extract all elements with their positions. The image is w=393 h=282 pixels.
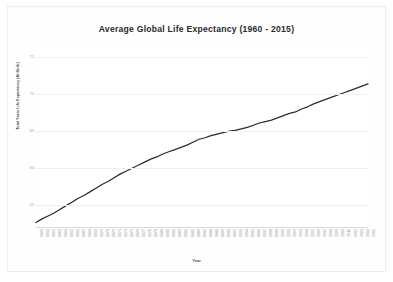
gridline [36,168,368,169]
x-tick-label: 1992 [233,229,237,237]
x-axis-line [36,227,368,228]
x-tick-label: 2004 [305,229,309,237]
x-axis-title: Year [0,258,393,263]
x-tick-label: 1985 [191,229,195,237]
x-tick-label: 1978 [148,229,152,237]
x-tick-label: 1967 [82,229,86,237]
x-tick-label: 1960 [40,229,44,237]
x-tick-label: 2009 [335,229,339,237]
x-tick-label: 2007 [323,229,327,237]
x-tick-label: 1988 [209,229,213,237]
x-tick-label: 1963 [58,229,62,237]
x-tick-label: 1989 [215,229,219,237]
gridline [36,57,368,58]
x-tick-label: 2012 [354,229,358,237]
x-tick-label: 1971 [106,229,110,237]
gridline [36,94,368,95]
x-tick-label: 1976 [136,229,140,237]
gridline [36,205,368,206]
x-tick-label: 2008 [329,229,333,237]
x-tick-label: 1972 [112,229,116,237]
y-axis-title: Total Years Life Expectancy (At Birth) [16,46,20,146]
y-tick-label: 60 [18,166,34,170]
x-tick-label: 1965 [70,229,74,237]
y-tick-label: 75 [18,55,34,59]
x-tick-label: 1990 [221,229,225,237]
x-tick-label: 1974 [124,229,128,237]
x-tick-label: 1982 [172,229,176,237]
x-tick-label: 1970 [100,229,104,237]
x-tick-label: 1995 [251,229,255,237]
y-tick-label: 70 [18,92,34,96]
x-tick-label: 1984 [184,229,188,237]
x-tick-label: 2006 [317,229,321,237]
x-tick-label: 1966 [76,229,80,237]
x-tick-label: 1981 [166,229,170,237]
x-tick-label: 2002 [293,229,297,237]
x-tick-label: 1994 [245,229,249,237]
x-tick-label: 1993 [239,229,243,237]
x-tick-label: 1987 [203,229,207,237]
x-tick-label: 2011 [347,229,351,237]
x-tick-label: 2010 [341,229,345,237]
x-tick-label: 1999 [275,229,279,237]
x-tick-label: 1980 [160,229,164,237]
x-tick-label: 2001 [287,229,291,237]
x-tick-label: 1973 [118,229,122,237]
x-tick-label: 1975 [130,229,134,237]
x-tick-label: 1998 [269,229,273,237]
x-tick-label: 1983 [178,229,182,237]
x-tick-label: 1996 [257,229,261,237]
x-axis-tick-labels: 1960196119621963196419651966196719681969… [36,229,368,253]
x-tick-label: 1964 [64,229,68,237]
x-tick-label: 2013 [360,229,364,237]
x-tick-label: 1968 [88,229,92,237]
x-tick-label: 2003 [299,229,303,237]
chart-title: Average Global Life Expectancy (1960 - 2… [0,24,393,34]
line-series [36,50,368,227]
x-tick-label: 2000 [281,229,285,237]
x-tick-label: 2015 [372,229,376,237]
x-tick-label: 1969 [94,229,98,237]
plot-area [36,50,368,227]
x-tick-label: 2014 [366,229,370,237]
x-tick-label: 2005 [311,229,315,237]
gridline [36,131,368,132]
y-tick-label: 65 [18,129,34,133]
x-tick-label: 1986 [197,229,201,237]
y-tick-label: 55 [18,203,34,207]
x-tick-label: 1997 [263,229,267,237]
x-tick-label: 1962 [52,229,56,237]
x-tick-label: 1991 [227,229,231,237]
y-axis-tick-labels: 5560657075 [18,50,34,227]
x-tick-label: 1977 [142,229,146,237]
x-tick-label: 1979 [154,229,158,237]
x-tick-label: 1961 [46,229,50,237]
